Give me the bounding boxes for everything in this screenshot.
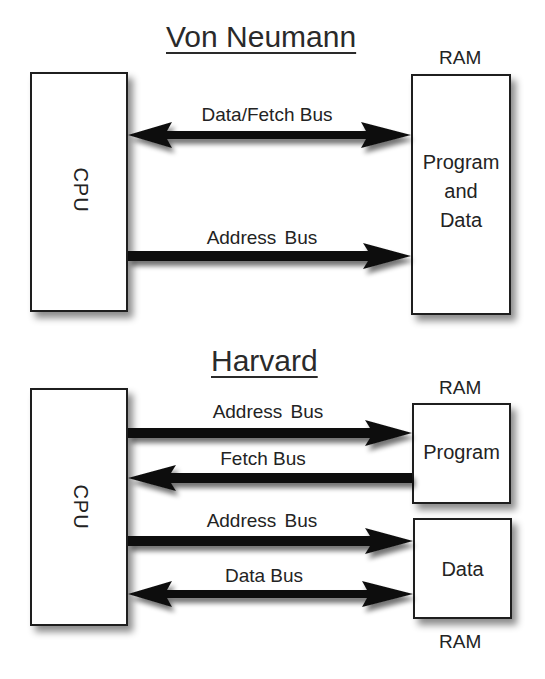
vn-ram-caption: RAM: [439, 48, 481, 67]
harvard-data-address-bus-arrow: [128, 528, 413, 554]
vn-ram-line-and: and: [413, 177, 509, 206]
harvard-fetch-bus-label: Fetch Bus: [220, 449, 306, 468]
harvard-cpu-label: CPU: [71, 484, 91, 529]
vn-cpu-label: CPU: [71, 167, 91, 212]
harvard-data-box: Data: [413, 518, 512, 619]
vn-ram-line-data: Data: [413, 206, 509, 235]
vn-ram-line-program: Program: [413, 148, 509, 177]
vn-ram-box: Program and Data: [411, 74, 511, 315]
harvard-program-address-bus-label: Address Bus: [213, 402, 324, 421]
harvard-title: Harvard: [211, 346, 318, 376]
vn-cpu-box: CPU: [30, 72, 128, 312]
harvard-program-ram-caption: RAM: [439, 378, 481, 397]
harvard-data-ram-caption: RAM: [439, 632, 481, 651]
harvard-program-box: Program: [412, 403, 511, 504]
harvard-data-bus-label: Data Bus: [225, 566, 303, 585]
vn-ram-content: Program and Data: [413, 148, 509, 235]
harvard-program-address-bus-arrow: [128, 420, 412, 446]
von-neumann-title: Von Neumann: [166, 22, 356, 52]
harvard-data-label: Data: [415, 555, 510, 584]
vn-data-fetch-bus-arrow: [128, 122, 411, 148]
harvard-cpu-box: CPU: [30, 388, 128, 626]
vn-address-bus-label: Address Bus: [207, 228, 318, 247]
harvard-program-label: Program: [414, 438, 509, 467]
vn-data-fetch-bus-label: Data/Fetch Bus: [202, 105, 333, 124]
harvard-data-address-bus-label: Address Bus: [207, 511, 318, 530]
